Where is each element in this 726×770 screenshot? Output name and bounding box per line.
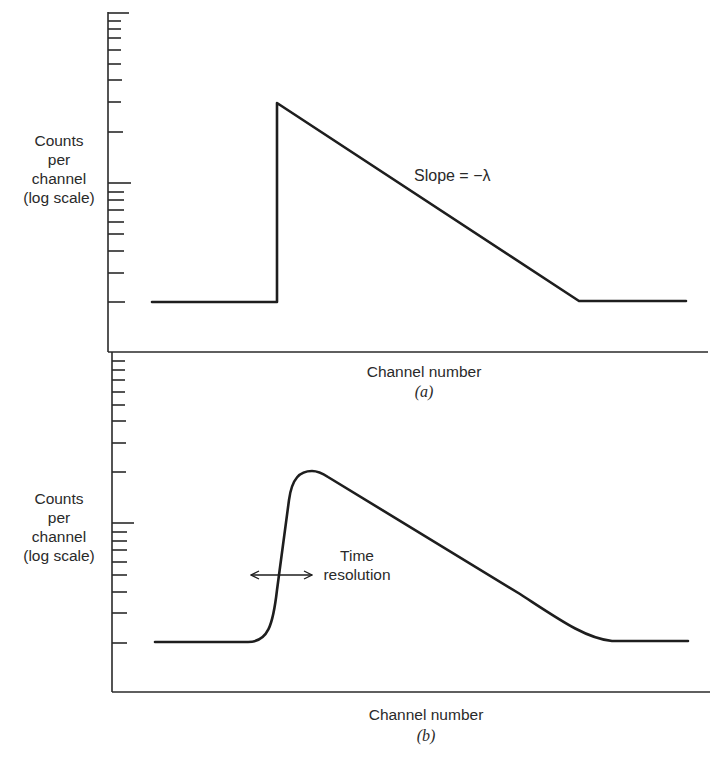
annotation-line: resolution xyxy=(312,565,402,584)
panel-b-spectrum-curve xyxy=(155,471,688,642)
ylabel-line: (log scale) xyxy=(4,546,114,565)
panel-a-x-axis-label: Channel number xyxy=(334,362,514,381)
panel-a-y-axis-label: Counts per channel (log scale) xyxy=(4,131,114,207)
ylabel-line: channel xyxy=(4,527,114,546)
ylabel-line: Counts xyxy=(4,131,114,150)
panel-b-y-axis-label: Counts per channel (log scale) xyxy=(4,489,114,565)
panel-b-y-axis xyxy=(112,352,134,692)
figure-canvas xyxy=(0,0,726,770)
panel-b-caption: (b) xyxy=(396,726,456,745)
panel-b-x-axis-label: Channel number xyxy=(336,705,516,724)
time-resolution-label: Time resolution xyxy=(312,546,402,584)
ylabel-line: per xyxy=(4,508,114,527)
panel-a xyxy=(108,12,708,352)
ylabel-line: channel xyxy=(4,169,114,188)
ylabel-line: Counts xyxy=(4,489,114,508)
ylabel-line: per xyxy=(4,150,114,169)
panel-a-spectrum-curve xyxy=(152,103,686,302)
slope-annotation: Slope = −λ xyxy=(414,166,491,185)
panel-a-caption: (a) xyxy=(394,382,454,401)
annotation-line: Time xyxy=(312,546,402,565)
ylabel-line: (log scale) xyxy=(4,188,114,207)
panel-b xyxy=(112,352,710,692)
